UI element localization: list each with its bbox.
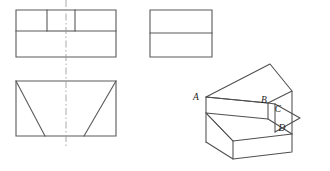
vertex-label-a: A [192, 92, 199, 102]
front-view-left-diagonal [16, 81, 45, 136]
side-view [150, 10, 212, 57]
iso-slanted-top-face [206, 64, 292, 103]
technical-drawing-canvas: A B C D [0, 0, 330, 171]
top-view-left-inner-rect [16, 10, 47, 31]
iso-base-front-face [206, 141, 233, 159]
front-view-right-diagonal [84, 81, 116, 136]
vertex-label-d: D [278, 123, 286, 133]
iso-step-diagonal-edge [206, 113, 233, 141]
isometric-pictorial: A B C D [192, 64, 300, 159]
vertex-label-c: C [275, 104, 282, 114]
drawing-sheet: A B C D [0, 0, 330, 171]
top-view-right-inner-rect [75, 10, 116, 31]
vertex-label-b: B [261, 95, 267, 105]
